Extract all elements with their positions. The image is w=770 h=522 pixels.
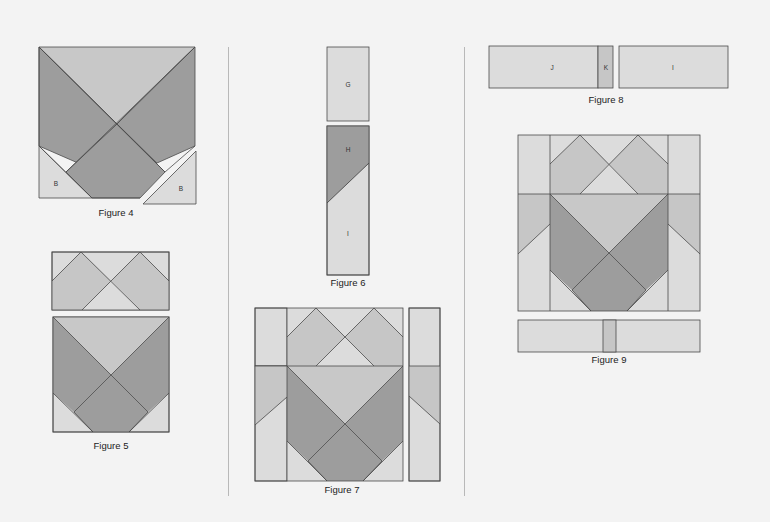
fig8-label-k: K xyxy=(604,64,608,71)
fig8-label-j: J xyxy=(550,64,553,71)
column-divider-left xyxy=(228,47,229,496)
fig4-label-b-right: B xyxy=(179,185,183,192)
fig6-label-i: I xyxy=(347,230,349,237)
fig6-label-h: H xyxy=(346,146,351,153)
figure-5-caption: Figure 5 xyxy=(94,440,129,451)
figure-7-diagram xyxy=(255,308,440,481)
figure-8-caption: Figure 8 xyxy=(589,94,624,105)
fig8-piece-j xyxy=(489,46,598,88)
figure-8-diagram xyxy=(489,46,728,88)
fig6-label-g: G xyxy=(345,81,350,88)
fig4-label-b-left: B xyxy=(54,180,58,187)
figure-4-caption: Figure 4 xyxy=(99,207,134,218)
figure-9-caption: Figure 9 xyxy=(592,354,627,365)
fig8-label-i: I xyxy=(672,64,674,71)
figure-9-diagram xyxy=(518,135,700,352)
figure-6-caption: Figure 6 xyxy=(331,277,366,288)
figure-5-diagram xyxy=(52,252,169,432)
figure-4-diagram xyxy=(39,47,196,204)
figure-7-caption: Figure 7 xyxy=(325,484,360,495)
column-divider-right xyxy=(464,47,465,496)
